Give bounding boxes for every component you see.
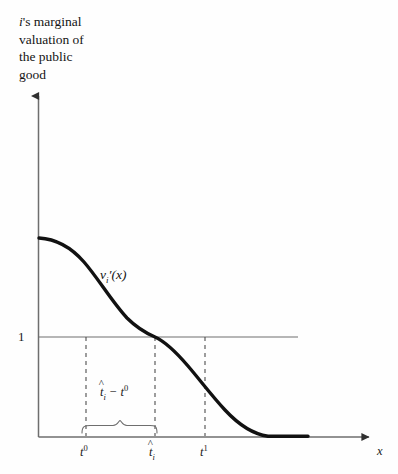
- brace-label-t-hat: ^t: [100, 385, 103, 400]
- brace-span-label: ^ti − t0: [100, 385, 128, 400]
- x-tick-t-hat-subscript: i: [152, 452, 154, 462]
- x-tick-label-t-hat-i: ^ti: [149, 445, 155, 460]
- x-tick-label-t0: t0: [80, 445, 88, 460]
- y-axis-unit-tick-label: 1: [18, 329, 25, 345]
- plot-canvas: [0, 0, 398, 474]
- curve-label-argument: (x): [111, 267, 126, 282]
- brace-t-hat-minus-t0: [82, 421, 157, 434]
- marginal-valuation-figure: i's marginalvaluation ofthe publicgood 1…: [0, 0, 398, 474]
- x-tick-label-t1: t1: [200, 445, 208, 460]
- hat-accent-icon: ^: [148, 438, 153, 449]
- x-tick-t1-superscript: 1: [203, 443, 207, 453]
- curve-label-v-prime-i-x: vi′(x): [100, 267, 126, 283]
- x-axis-label: x: [377, 444, 383, 459]
- brace-label-second-superscript: 0: [124, 383, 128, 393]
- x-tick-t-hat-wrap: ^t: [149, 445, 152, 460]
- x-tick-t0-superscript: 0: [83, 443, 87, 453]
- brace-label-minus: −: [106, 385, 121, 399]
- hat-accent-icon: ^: [99, 378, 104, 389]
